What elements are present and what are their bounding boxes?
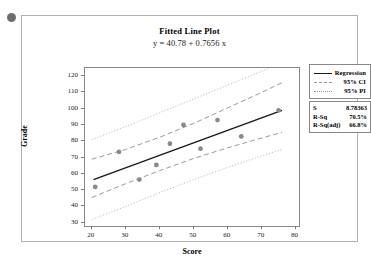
legend-line-solid-icon <box>313 70 333 76</box>
x-tick-mark <box>227 226 228 229</box>
plot-svg <box>85 68 299 226</box>
regression-line <box>93 110 282 179</box>
legend-line-dashed-icon <box>313 79 333 85</box>
data-point <box>117 149 122 154</box>
y-tick-label: 110 <box>56 87 78 95</box>
stat-label: S <box>313 104 317 111</box>
stat-label: R-Sq(adj) <box>313 121 340 128</box>
data-point <box>239 134 244 139</box>
page-title: Fitted Line Plot <box>22 26 357 37</box>
y-tick-label: 120 <box>56 71 78 79</box>
y-tick-label: 90 <box>56 120 78 128</box>
decorative-dot <box>7 13 16 22</box>
stat-value: 70.5% <box>349 113 367 120</box>
stat-label: R-Sq <box>313 113 327 120</box>
legend-item-label: 95% CI <box>333 78 367 85</box>
stat-value: 66.8% <box>349 121 367 128</box>
x-tick-label: 20 <box>81 231 101 239</box>
x-axis-label: Score <box>84 247 300 256</box>
y-tick-label: 60 <box>56 169 78 177</box>
prediction-interval-upper <box>92 68 282 140</box>
y-tick-label: 70 <box>56 153 78 161</box>
x-tick-mark <box>91 226 92 229</box>
y-tick-label: 50 <box>56 185 78 193</box>
y-tick-label: 100 <box>56 104 78 112</box>
legend-line-dotted-icon <box>313 88 333 94</box>
prediction-interval-lower <box>92 149 282 219</box>
y-tick-label: 30 <box>56 218 78 226</box>
x-tick-mark <box>261 226 262 229</box>
x-tick-label: 50 <box>183 231 203 239</box>
y-tick-label: 40 <box>56 201 78 209</box>
y-tick-mark <box>81 140 84 141</box>
x-tick-mark <box>193 226 194 229</box>
data-point <box>93 185 98 190</box>
stat-value: 8.78363 <box>346 104 367 111</box>
confidence-interval-lower <box>92 132 282 197</box>
chart-panel: Fitted Line Plot y = 40.78 + 0.7656 x 30… <box>21 15 358 242</box>
legend-item-label: 95% PI <box>333 87 367 94</box>
legend-item: 95% CI <box>313 77 367 86</box>
legend-item-label: Regression <box>333 69 367 76</box>
y-axis-label: Grade <box>20 125 29 147</box>
regression-equation: y = 40.78 + 0.7656 x <box>22 38 357 49</box>
y-tick-mark <box>81 173 84 174</box>
chart-screenshot: Fitted Line Plot y = 40.78 + 0.7656 x 30… <box>0 0 371 256</box>
title-block: Fitted Line Plot y = 40.78 + 0.7656 x <box>22 26 357 48</box>
x-tick-mark <box>159 226 160 229</box>
y-tick-mark <box>81 75 84 76</box>
data-point <box>215 118 220 123</box>
y-tick-mark <box>81 108 84 109</box>
data-point <box>198 146 203 151</box>
x-tick-label: 40 <box>149 231 169 239</box>
y-tick-mark <box>81 205 84 206</box>
stat-row: S 8.78363 <box>313 104 367 113</box>
x-tick-label: 80 <box>285 231 305 239</box>
legend: Regression 95% CI 95% PI <box>309 64 371 99</box>
x-tick-mark <box>295 226 296 229</box>
data-point <box>181 123 186 128</box>
x-tick-label: 60 <box>217 231 237 239</box>
legend-item: 95% PI <box>313 86 367 95</box>
x-tick-label: 30 <box>115 231 135 239</box>
y-tick-mark <box>81 157 84 158</box>
y-tick-mark <box>81 189 84 190</box>
x-tick-mark <box>125 226 126 229</box>
y-tick-mark <box>81 124 84 125</box>
data-points <box>93 108 281 189</box>
stat-row: R-Sq(adj) 66.8% <box>313 121 367 130</box>
data-point <box>168 141 173 146</box>
data-point <box>276 108 281 113</box>
data-point <box>154 163 159 168</box>
x-tick-label: 70 <box>251 231 271 239</box>
y-tick-mark <box>81 91 84 92</box>
legend-item: Regression <box>313 68 367 77</box>
plot-area <box>84 67 300 227</box>
y-tick-mark <box>81 222 84 223</box>
y-tick-label: 80 <box>56 136 78 144</box>
statistics-box: S 8.78363 R-Sq 70.5% R-Sq(adj) 66.8% <box>309 101 371 133</box>
data-point <box>137 177 142 182</box>
stat-row: R-Sq 70.5% <box>313 113 367 122</box>
